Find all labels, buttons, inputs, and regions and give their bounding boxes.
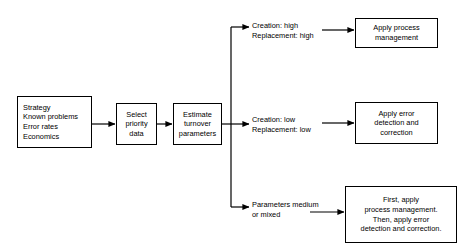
node-apply-both: First, apply process management. Then, a… [345,186,457,243]
node-inputs: Strategy Known problems Error rates Econ… [17,96,92,148]
node-select-priority-data: Select priority data [116,103,157,145]
node-apply-error-detection: Apply error detection and correction [355,102,438,144]
branch-label-creation-low: Creation: low Replacement: low [252,115,311,135]
node-apply-process-management: Apply process management [355,18,438,48]
node-estimate-turnover-parameters: Estimate turnover parameters [173,103,222,145]
branch-label-parameters-mixed: Parameters medium or mixed [252,200,319,220]
branch-label-creation-high: Creation: high Replacement: high [252,21,314,41]
